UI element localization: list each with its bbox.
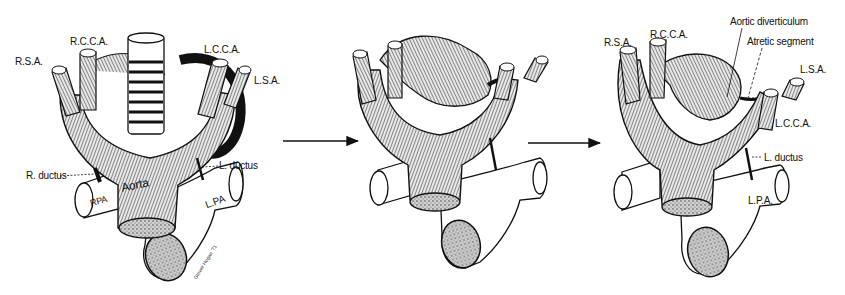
label-l-ductus-3: L. ductus <box>764 152 803 163</box>
label-l-ductus-1: L. ductus <box>219 160 258 171</box>
label-r-ductus: R. ductus <box>26 170 66 181</box>
label-rsa-3: R.S.A. <box>604 37 632 48</box>
aorta-opening <box>119 218 175 238</box>
rcca-vessel <box>80 52 96 110</box>
label-lpa-3: L.P.A. <box>748 195 773 206</box>
label-lcca-3: L.C.C.A. <box>775 118 811 129</box>
panel-2-illustration <box>353 36 548 272</box>
label-lsa-1: L.S.A. <box>254 75 280 86</box>
label-rsa-1: R.S.A. <box>15 56 43 67</box>
rsa-vessel <box>52 68 80 116</box>
label-rcca-1: R.C.C.A. <box>70 36 108 47</box>
label-atretic-segment: Atretic segment <box>747 36 813 47</box>
trachea <box>128 36 164 134</box>
label-lsa-3: L.S.A. <box>800 64 826 75</box>
anatomy-diagram <box>0 0 845 295</box>
label-aortic-diverticulum: Aortic diverticulum <box>730 16 808 27</box>
lpa-opening <box>229 167 243 201</box>
label-lcca-1: L.C.C.A. <box>204 44 240 55</box>
label-rcca-3: R.C.C.A. <box>650 29 688 40</box>
